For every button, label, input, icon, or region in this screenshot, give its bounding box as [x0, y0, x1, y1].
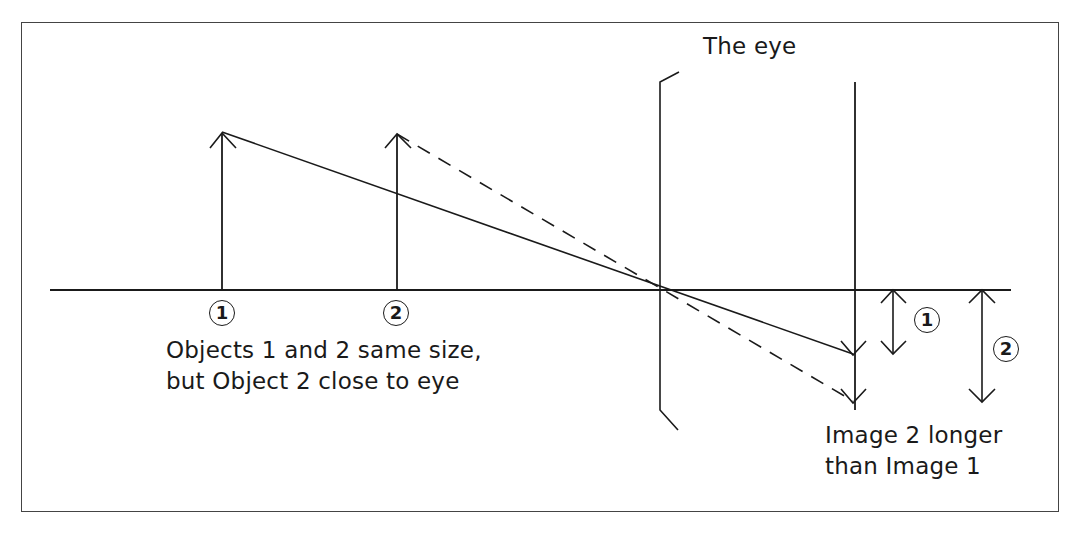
images-caption-line-2: than Image 1	[825, 452, 981, 481]
eye-label: The eye	[703, 32, 796, 61]
image-1-arrowhead-icon	[841, 341, 866, 355]
image-2-marker: 2	[993, 336, 1019, 362]
object-1-arrow-icon	[210, 133, 236, 290]
objects-caption-line-1: Objects 1 and 2 same size,	[166, 336, 482, 365]
image-2-size-double-arrow-icon	[969, 290, 995, 402]
image-2-arrowhead-icon	[841, 389, 866, 403]
object-1-marker: 1	[209, 300, 235, 326]
images-caption-line-1: Image 2 longer	[825, 421, 1002, 450]
ray-object-1	[222, 132, 853, 354]
object-2-marker: 2	[383, 300, 409, 326]
object-2-arrow-icon	[385, 134, 411, 290]
image-1-marker: 1	[914, 307, 940, 333]
objects-caption-line-2: but Object 2 close to eye	[166, 367, 460, 396]
eye-lens-line	[660, 72, 679, 430]
eye-image-size-diagram: The eye 1 2 1 2 Objects 1 and 2 same siz…	[0, 0, 1081, 534]
image-1-size-double-arrow-icon	[881, 290, 906, 354]
